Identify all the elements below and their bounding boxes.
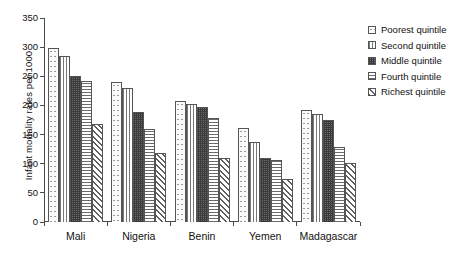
bar[interactable] — [155, 153, 166, 222]
y-tick-label: 0 — [33, 216, 38, 227]
bar[interactable] — [81, 81, 92, 222]
bar-group-yemen — [234, 18, 297, 222]
bar[interactable] — [111, 82, 122, 222]
x-axis-cell: Yemen — [234, 222, 297, 246]
bar[interactable] — [238, 128, 249, 222]
bar[interactable] — [70, 76, 81, 222]
plot-area: 050100150200250300350 MaliNigeriaBeninYe… — [44, 18, 360, 222]
x-tick-label-yemen: Yemen — [234, 230, 297, 242]
legend-label: Richest quintile — [381, 86, 445, 97]
bar-group-nigeria — [107, 18, 170, 222]
chart-root: Infant mortality rates per 1000 05010015… — [0, 0, 463, 257]
y-axis-title: Infant mortality rates per 1000 — [23, 26, 34, 206]
bar[interactable] — [301, 110, 312, 222]
bar[interactable] — [282, 179, 293, 222]
bar[interactable] — [122, 88, 133, 222]
bar[interactable] — [133, 112, 144, 222]
bar[interactable] — [175, 101, 186, 222]
y-tick-label: 150 — [22, 129, 38, 140]
chart-legend: Poorest quintileSecond quintileMiddle qu… — [368, 22, 463, 100]
bar-group-benin — [170, 18, 233, 222]
x-tick-mark — [233, 222, 234, 226]
legend-label: Middle quintile — [381, 55, 442, 66]
legend-swatch-icon — [368, 41, 376, 49]
bars — [175, 18, 230, 222]
bars — [48, 18, 103, 222]
bar[interactable] — [48, 48, 59, 222]
legend-label: Second quintile — [381, 40, 446, 51]
legend-label: Fourth quintile — [381, 71, 441, 82]
bar[interactable] — [197, 107, 208, 222]
bars — [111, 18, 166, 222]
bar-group-madagascar — [297, 18, 360, 222]
y-tick-label: 300 — [22, 41, 38, 52]
bar-groups — [44, 18, 360, 222]
legend-label: Poorest quintile — [381, 24, 446, 35]
x-axis-cell: Benin — [170, 222, 233, 246]
x-axis-cell: Mali — [44, 222, 107, 246]
x-tick-label-nigeria: Nigeria — [107, 230, 170, 242]
y-tick-label: 100 — [22, 158, 38, 169]
bar[interactable] — [271, 160, 282, 222]
legend-item[interactable]: Richest quintile — [368, 84, 463, 100]
y-tick-label: 200 — [22, 99, 38, 110]
bar[interactable] — [323, 120, 334, 222]
legend-item[interactable]: Fourth quintile — [368, 69, 463, 85]
x-tick-label-mali: Mali — [44, 230, 107, 242]
bars — [301, 18, 356, 222]
bar[interactable] — [219, 158, 230, 222]
x-tick-mark — [107, 222, 108, 226]
legend-swatch-icon — [368, 88, 376, 96]
legend-swatch-icon — [368, 57, 376, 65]
bar[interactable] — [186, 104, 197, 222]
legend-swatch-icon — [368, 26, 376, 34]
x-axis-ticks: MaliNigeriaBeninYemenMadagascar — [44, 222, 360, 246]
bar[interactable] — [144, 129, 155, 222]
x-tick-label-madagascar: Madagascar — [297, 230, 360, 242]
x-tick-mark — [170, 222, 171, 226]
bar[interactable] — [59, 56, 70, 222]
legend-item[interactable]: Middle quintile — [368, 53, 463, 69]
x-tick-mark — [44, 222, 45, 226]
x-tick-label-benin: Benin — [170, 230, 233, 242]
bar[interactable] — [345, 163, 356, 222]
x-axis-end-tick — [360, 222, 361, 226]
x-axis-cell: Madagascar — [297, 222, 360, 246]
bar-group-mali — [44, 18, 107, 222]
bars — [238, 18, 293, 222]
legend-swatch-icon — [368, 72, 376, 80]
bar[interactable] — [92, 124, 103, 222]
y-tick-label: 350 — [22, 12, 38, 23]
bar[interactable] — [312, 114, 323, 222]
legend-item[interactable]: Second quintile — [368, 38, 463, 54]
bar[interactable] — [334, 147, 345, 222]
bar[interactable] — [208, 118, 219, 222]
x-axis-cell: Nigeria — [107, 222, 170, 246]
bar[interactable] — [260, 158, 271, 222]
x-tick-mark — [296, 222, 297, 226]
y-tick-label: 250 — [22, 70, 38, 81]
y-tick-label: 50 — [27, 187, 38, 198]
bar[interactable] — [249, 142, 260, 222]
legend-item[interactable]: Poorest quintile — [368, 22, 463, 38]
